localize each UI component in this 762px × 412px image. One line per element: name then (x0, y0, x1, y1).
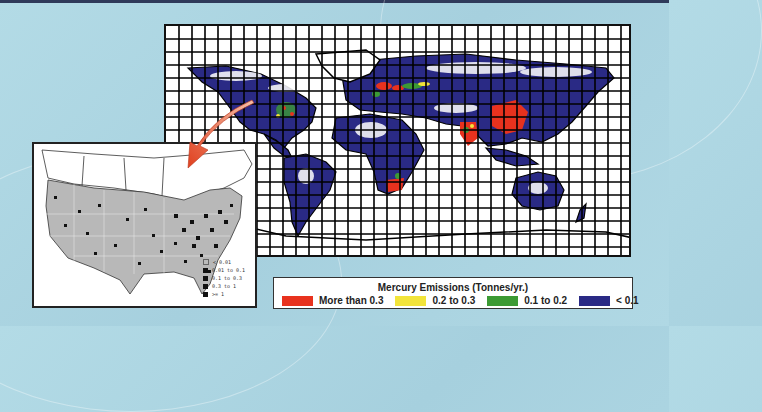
legend-swatch-green (487, 296, 518, 306)
legend-label: < 0.1 (616, 295, 639, 306)
legend-item-0-1-to-0-2: 0.1 to 0.2 (487, 295, 567, 306)
legend-swatch-red (282, 296, 313, 306)
legend-label: 0.2 to 0.3 (432, 295, 475, 306)
legend-label: More than 0.3 (319, 295, 383, 306)
legend-label: 0.1 to 0.2 (524, 295, 567, 306)
legend-swatch-blue (579, 296, 610, 306)
legend-item-less-than-0-1: < 0.1 (579, 295, 639, 306)
legend-item-more-than-0-3: More than 0.3 (282, 295, 383, 306)
emissions-legend: Mercury Emissions (Tonnes/yr.) More than… (273, 277, 633, 309)
legend-swatch-yellow (395, 296, 426, 306)
legend-title: Mercury Emissions (Tonnes/yr.) (274, 282, 632, 293)
legend-item-0-2-to-0-3: 0.2 to 0.3 (395, 295, 475, 306)
